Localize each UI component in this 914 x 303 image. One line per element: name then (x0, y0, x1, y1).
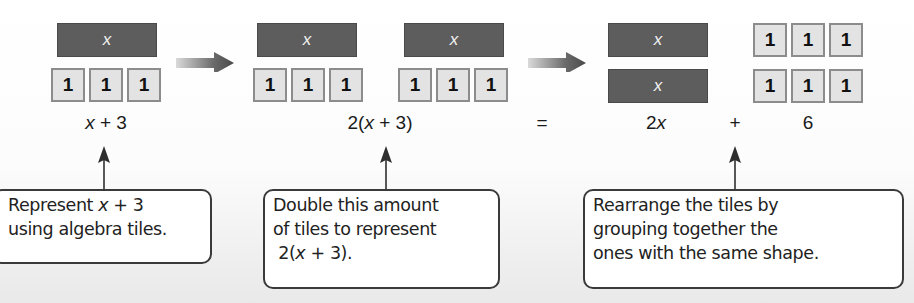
one-tile-label: 1 (765, 29, 776, 51)
one-tile: 1 (329, 68, 363, 102)
one-tile: 1 (791, 23, 825, 57)
one-tile-label: 1 (841, 75, 852, 97)
one-tile: 1 (791, 69, 825, 103)
expression-x-plus-3: x + 3 (85, 112, 127, 134)
x-tile-label: x (654, 76, 663, 96)
one-tile: 1 (253, 68, 287, 102)
one-tile-label: 1 (803, 29, 814, 51)
x-tile: x (57, 23, 157, 57)
right-arrow-icon (176, 52, 234, 72)
one-tile-label: 1 (841, 29, 852, 51)
one-tile-label: 1 (101, 74, 112, 96)
callout-line: Double this amount (273, 193, 490, 217)
callout-line: Represent x + 3 (8, 193, 202, 217)
one-tile-label: 1 (486, 74, 497, 96)
expression-6: 6 (803, 112, 814, 134)
x-tile-label: x (103, 30, 112, 50)
one-tile-label: 1 (341, 74, 352, 96)
x-tile: x (608, 69, 708, 103)
right-arrow-icon (528, 52, 586, 72)
one-tile-label: 1 (410, 74, 421, 96)
one-tile: 1 (127, 68, 161, 102)
one-tile-label: 1 (63, 74, 74, 96)
one-tile-label: 1 (303, 74, 314, 96)
callout-line: Rearrange the tiles by (593, 193, 894, 217)
one-tile: 1 (51, 68, 85, 102)
callout-line: grouping together the (593, 217, 894, 241)
one-tile-label: 1 (139, 74, 150, 96)
one-tile: 1 (829, 69, 863, 103)
one-tile-label: 1 (765, 75, 776, 97)
x-tile-label: x (450, 30, 459, 50)
one-tile-label: 1 (803, 75, 814, 97)
x-tile: x (608, 23, 708, 57)
one-tile: 1 (474, 68, 508, 102)
one-tile: 1 (291, 68, 325, 102)
one-tile: 1 (398, 68, 432, 102)
plus-sign: + (729, 112, 740, 134)
x-tile: x (257, 23, 357, 57)
one-tile-label: 1 (265, 74, 276, 96)
equals-sign: = (536, 112, 547, 134)
up-arrow-icon (97, 146, 111, 190)
expression-2x: 2x (646, 112, 666, 134)
one-tile-label: 1 (448, 74, 459, 96)
callout-rearrange: Rearrange the tiles by grouping together… (583, 189, 904, 289)
one-tile: 1 (753, 69, 787, 103)
callout-line: using algebra tiles. (8, 217, 202, 241)
expression-2-x-plus-3: 2(x + 3) (348, 112, 413, 134)
up-arrow-icon (379, 146, 393, 190)
callout-line: 2(x + 3). (273, 241, 490, 265)
x-tile: x (404, 23, 504, 57)
x-tile-label: x (654, 30, 663, 50)
one-tile: 1 (436, 68, 470, 102)
one-tile: 1 (753, 23, 787, 57)
callout-represent: Represent x + 3 using algebra tiles. (0, 189, 212, 264)
one-tile: 1 (89, 68, 123, 102)
up-arrow-icon (728, 146, 742, 190)
callout-line: ones with the same shape. (593, 241, 894, 265)
callout-line: of tiles to represent (273, 217, 490, 241)
callout-double: Double this amount of tiles to represent… (263, 189, 500, 289)
x-tile-label: x (303, 30, 312, 50)
one-tile: 1 (829, 23, 863, 57)
